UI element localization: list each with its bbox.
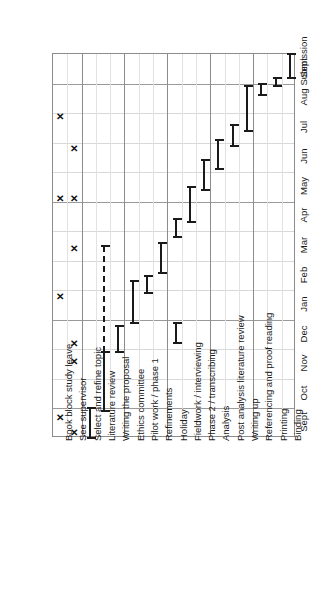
gantt-bar: [203, 160, 205, 190]
task-tick-label: Writing the proposal: [120, 357, 131, 441]
month-tick-label: Jan: [298, 296, 309, 311]
bar-cap-start: [130, 280, 139, 282]
task-gridline: [167, 54, 168, 436]
event-marker-x: ✕: [70, 244, 79, 253]
month-gridline: [53, 261, 294, 262]
task-tick-label: Writing up: [249, 398, 260, 441]
gantt-bar: [217, 140, 219, 170]
task-tick-label: See supervisor: [77, 378, 88, 441]
bar-cap-start: [187, 186, 196, 188]
month-gridline: [53, 143, 294, 144]
event-marker-x: ✕: [70, 144, 79, 153]
event-marker-x: ✕: [56, 194, 65, 203]
month-gridline: [53, 113, 294, 114]
gantt-bar: [289, 54, 291, 78]
gantt-bar: [175, 323, 177, 344]
bar-cap-end: [187, 221, 196, 223]
gantt-bar: [175, 219, 177, 237]
gantt-bar: [103, 246, 105, 352]
bar-cap-start: [115, 325, 124, 327]
month-tick-label: Submission: [298, 36, 309, 85]
month-tick-label: Oct: [298, 385, 309, 400]
gantt-bar: [260, 84, 262, 96]
month-tick-label: Feb: [298, 266, 309, 282]
task-tick-label: Holiday: [178, 409, 189, 441]
task-tick-label: Pilot work / phase 1: [149, 358, 160, 441]
bar-cap-start: [287, 53, 296, 55]
month-tick-label: Aug: [298, 89, 309, 106]
task-tick-label: Printing: [278, 409, 289, 441]
gantt-bar: [275, 78, 277, 87]
task-gridline: [282, 54, 283, 436]
bar-cap-end: [115, 351, 124, 353]
bar-cap-start: [230, 124, 239, 126]
gantt-bar: [89, 408, 91, 438]
month-gridline: [53, 202, 294, 203]
month-tick-label: Nov: [298, 355, 309, 372]
bar-cap-end: [173, 342, 182, 344]
gantt-bar: [160, 243, 162, 273]
month-gridline: [53, 231, 294, 232]
bar-cap-start: [258, 83, 267, 85]
gantt-bar: [103, 352, 105, 411]
event-marker-x: ✕: [56, 112, 65, 121]
bar-cap-end: [215, 168, 224, 170]
gantt-bar: [132, 281, 134, 322]
task-tick-label: Literature review: [106, 371, 117, 441]
task-gridline: [225, 54, 226, 436]
task-gridline: [182, 54, 183, 436]
month-tick-label: Apr: [298, 208, 309, 223]
bar-cap-end: [130, 322, 139, 324]
bar-cap-start: [173, 322, 182, 324]
month-gridline: [53, 349, 294, 350]
bar-cap-end: [158, 272, 167, 274]
month-gridline: [53, 379, 294, 380]
task-tick-label: Binding: [292, 409, 303, 441]
bar-cap-start: [144, 275, 153, 277]
gantt-bar: [189, 187, 191, 222]
bar-cap-start: [158, 242, 167, 244]
task-tick-label: Book block study leave: [63, 344, 74, 441]
task-tick-label: Analysis: [220, 406, 231, 441]
gantt-bar: [117, 326, 119, 353]
month-tick-label: Dec: [298, 325, 309, 342]
bar-cap-start: [215, 139, 224, 141]
bar-cap-end: [287, 77, 296, 79]
bar-cap-end: [230, 145, 239, 147]
bar-cap-end: [273, 85, 282, 87]
bar-cap-start: [173, 218, 182, 220]
month-tick-label: Jul: [298, 121, 309, 133]
month-gridline: [53, 172, 294, 173]
task-tick-label: Fieldwork / interviewing: [192, 342, 203, 441]
month-tick-label: Jun: [298, 149, 309, 164]
event-marker-x: ✕: [56, 292, 65, 301]
bar-cap-end: [201, 189, 210, 191]
month-gridline: [53, 320, 294, 321]
task-tick-label: Select and refine topic: [92, 347, 103, 441]
month-tick-label: Mar: [298, 237, 309, 253]
task-tick-label: Phase 2 / transcribing: [206, 349, 217, 441]
task-tick-label: Referencing and proof reading: [263, 313, 274, 441]
gantt-chart: ✕✕✕✕✕✕✕✕✕✕ SeptOctNovDecJanFebMarAprMayJ…: [0, 0, 330, 607]
bar-cap-start: [101, 245, 110, 247]
bar-cap-end: [244, 130, 253, 132]
plot-area: ✕✕✕✕✕✕✕✕✕✕: [52, 53, 295, 437]
bar-cap-end: [258, 94, 267, 96]
event-marker-x: ✕: [70, 194, 79, 203]
month-tick-label: May: [298, 177, 309, 195]
gantt-bar: [146, 276, 148, 294]
bar-cap-end: [144, 292, 153, 294]
bar-cap-start: [201, 159, 210, 161]
task-gridline: [253, 54, 254, 436]
month-gridline: [53, 290, 294, 291]
task-tick-label: Post analysis literature review: [235, 315, 246, 441]
gantt-bar: [232, 125, 234, 146]
bar-cap-start: [244, 85, 253, 87]
bar-cap-start: [273, 77, 282, 79]
task-tick-label: Ethics committee: [135, 369, 146, 441]
bar-cap-end: [173, 236, 182, 238]
task-tick-label: Refinements: [163, 388, 174, 441]
gantt-bar: [246, 86, 248, 130]
